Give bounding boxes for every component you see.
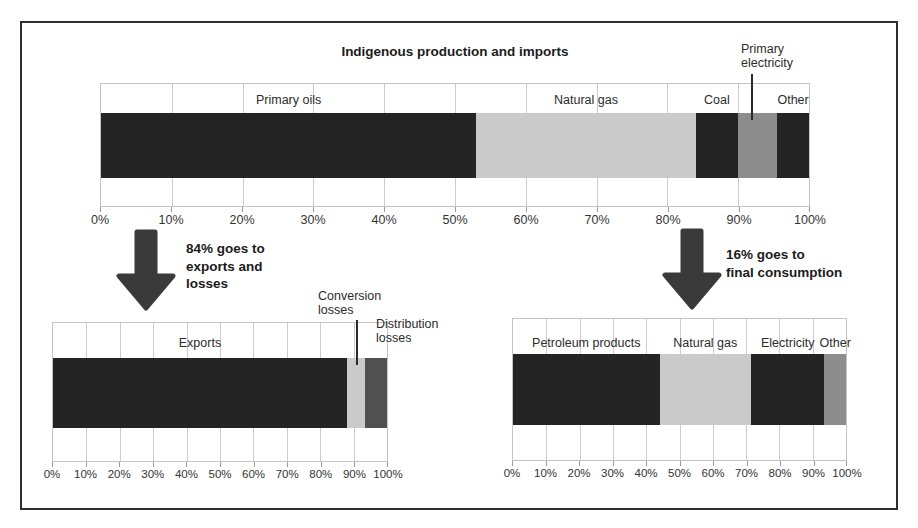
coal-segment xyxy=(696,113,738,178)
caption-line: exports and xyxy=(186,258,265,276)
electricity-segment xyxy=(751,354,824,425)
axis-tick-label: 70% xyxy=(276,468,299,480)
axis-tick xyxy=(739,207,740,212)
axis-tick xyxy=(809,207,810,212)
axis-tick-label: 60% xyxy=(701,467,724,479)
down-arrow-icon xyxy=(116,228,176,312)
axis-tick xyxy=(313,207,314,212)
axis-tick xyxy=(668,207,669,212)
axis-tick-label: 90% xyxy=(802,467,825,479)
axis-tick xyxy=(680,461,681,466)
axis-tick xyxy=(52,462,53,467)
other-segment xyxy=(777,113,809,178)
plot-area: Petroleum productsNatural gasElectricity… xyxy=(512,318,847,461)
final-consumption-chart: Petroleum productsNatural gasElectricity… xyxy=(512,318,847,491)
primary-electricity-label: Primary electricity xyxy=(741,42,805,70)
axis-tick-label: 50% xyxy=(208,468,231,480)
petroleum-products-segment xyxy=(513,354,660,425)
axis-tick-label: 30% xyxy=(300,213,325,227)
natural-gas-segment xyxy=(660,354,752,425)
axis-tick-label: 70% xyxy=(735,467,758,479)
axis-tick-label: 40% xyxy=(371,213,396,227)
axis-tick xyxy=(254,462,255,467)
axis-tick-label: 50% xyxy=(668,467,691,479)
axis-tick-label: 0% xyxy=(44,468,61,480)
electricity-label: Electricity xyxy=(761,336,814,350)
axis-tick xyxy=(186,462,187,467)
axis-tick-label: 20% xyxy=(229,213,254,227)
axis-tick-label: 0% xyxy=(91,213,109,227)
axis-tick xyxy=(119,462,120,467)
down-arrow-icon xyxy=(662,227,722,311)
exports-losses-chart: Exports0%10%20%30%40%50%60%70%80%90%100% xyxy=(52,322,388,492)
exports-segment xyxy=(53,358,347,428)
axis-tick xyxy=(220,462,221,467)
axis-tick xyxy=(579,461,580,466)
axis-tick xyxy=(153,462,154,467)
stacked-bar xyxy=(513,354,846,425)
axis-tick-label: 70% xyxy=(584,213,609,227)
conversion-losses-segment xyxy=(347,358,365,428)
distribution-losses-segment xyxy=(365,358,387,428)
chart-title: Indigenous production and imports xyxy=(100,44,810,59)
axis-tick xyxy=(387,462,388,467)
axis-tick xyxy=(86,462,87,467)
axis-tick-label: 80% xyxy=(768,467,791,479)
axis-tick-label: 10% xyxy=(74,468,97,480)
caption-line: 84% goes to xyxy=(186,240,265,258)
axis-tick-label: 100% xyxy=(832,467,861,479)
axis-tick xyxy=(455,207,456,212)
axis-tick xyxy=(512,461,513,466)
primary-oils-label: Primary oils xyxy=(256,93,321,107)
conversion-losses-label: Conversion losses xyxy=(318,289,396,317)
caption-line: losses xyxy=(186,275,265,293)
axis-tick xyxy=(646,461,647,466)
axis-tick-label: 80% xyxy=(655,213,680,227)
top-stacked-bar-chart: Primary oilsNatural gasCoalOther0%10%20%… xyxy=(100,83,810,237)
axis-tick-label: 20% xyxy=(108,468,131,480)
axis-tick xyxy=(780,461,781,466)
axis-tick xyxy=(321,462,322,467)
axis-tick-label: 60% xyxy=(242,468,265,480)
axis-tick-label: 30% xyxy=(141,468,164,480)
distribution-losses-label: Distribution losses xyxy=(376,317,458,345)
axis-tick-label: 100% xyxy=(373,468,402,480)
axis-tick xyxy=(242,207,243,212)
exports-losses-caption: 84% goes to exports and losses xyxy=(186,240,265,293)
natural-gas-segment xyxy=(476,113,695,178)
axis-tick xyxy=(100,207,101,212)
plot-area: Exports xyxy=(52,322,388,462)
axis-tick xyxy=(287,462,288,467)
axis-tick-label: 40% xyxy=(175,468,198,480)
conversion-losses-leader-line xyxy=(356,320,358,365)
axis-tick-label: 80% xyxy=(309,468,332,480)
primary-oils-segment xyxy=(101,113,476,178)
stacked-bar xyxy=(101,113,809,178)
axis-tick xyxy=(354,462,355,467)
axis-tick xyxy=(814,461,815,466)
natural-gas-label: Natural gas xyxy=(554,93,618,107)
axis-tick xyxy=(171,207,172,212)
axis-tick-label: 10% xyxy=(158,213,183,227)
axis-tick-label: 10% xyxy=(534,467,557,479)
axis-tick-label: 90% xyxy=(343,468,366,480)
axis-tick xyxy=(526,207,527,212)
other-segment xyxy=(824,354,846,425)
axis-tick-label: 90% xyxy=(726,213,751,227)
plot-area: Primary oilsNatural gasCoalOther xyxy=(100,83,810,207)
axis-tick-label: 60% xyxy=(513,213,538,227)
axis-tick xyxy=(384,207,385,212)
axis-tick-label: 20% xyxy=(567,467,590,479)
primary-electricity-segment xyxy=(738,113,777,178)
natural-gas-label: Natural gas xyxy=(673,336,737,350)
axis-tick xyxy=(846,461,847,466)
other-label: Other xyxy=(820,336,851,350)
petroleum-products-label: Petroleum products xyxy=(532,336,640,350)
stacked-bar xyxy=(53,358,387,428)
axis-tick-label: 0% xyxy=(504,467,521,479)
coal-label: Coal xyxy=(704,93,730,107)
axis-tick xyxy=(713,461,714,466)
caption-line: final consumption xyxy=(726,264,842,282)
final-consumption-caption: 16% goes to final consumption xyxy=(726,246,842,281)
axis-tick-label: 50% xyxy=(442,213,467,227)
